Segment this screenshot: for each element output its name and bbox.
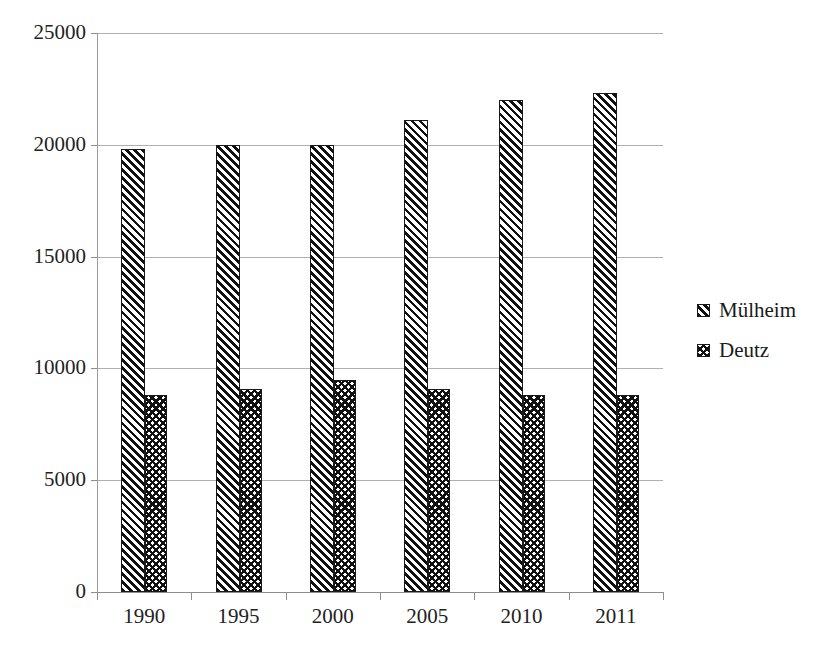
- x-tick-mark: [191, 592, 192, 600]
- x-tick-label-1990: 1990: [97, 603, 191, 629]
- y-tick-label: 0: [76, 581, 87, 602]
- legend-swatch-icon: [697, 304, 710, 317]
- legend-label: Mülheim: [719, 300, 796, 321]
- bar-deutz-2010: [523, 395, 545, 592]
- x-tick-label-2005: 2005: [380, 603, 474, 629]
- x-tick-mark: [569, 592, 570, 600]
- legend-label: Deutz: [719, 340, 769, 361]
- bar-chart: 0500010000150002000025000 19901995200020…: [0, 0, 829, 651]
- bar-deutz-2000: [334, 380, 356, 592]
- plot-area: [97, 33, 663, 592]
- x-tick-mark: [286, 592, 287, 600]
- bar-mlheim-2011: [593, 93, 617, 592]
- x-tick-label-2011: 2011: [569, 603, 663, 629]
- x-tick-mark: [380, 592, 381, 600]
- x-tick-mark: [97, 592, 98, 600]
- x-tick-mark: [663, 592, 664, 600]
- y-tick-label: 15000: [34, 246, 87, 267]
- bar-deutz-2005: [428, 389, 450, 592]
- bar-mlheim-1990: [121, 149, 145, 592]
- x-tick-label-2010: 2010: [475, 603, 569, 629]
- bar-mlheim-2010: [499, 100, 523, 592]
- y-tick-label: 10000: [34, 357, 87, 378]
- legend-item-deutz: Deutz: [697, 330, 829, 370]
- legend-swatch-icon: [697, 344, 710, 357]
- legend-item-mlheim: Mülheim: [697, 290, 829, 330]
- bar-mlheim-1995: [216, 145, 240, 592]
- y-tick-label: 25000: [34, 22, 87, 43]
- chart-legend: MülheimDeutz: [697, 290, 829, 370]
- y-tick-label: 20000: [34, 134, 87, 155]
- x-tick-label-1995: 1995: [192, 603, 286, 629]
- bar-deutz-2011: [617, 395, 639, 592]
- bar-mlheim-2000: [310, 145, 334, 592]
- y-tick-label: 5000: [44, 469, 86, 490]
- x-tick-label-2000: 2000: [286, 603, 380, 629]
- bar-deutz-1995: [240, 389, 262, 592]
- bar-deutz-1990: [145, 395, 167, 592]
- x-tick-mark: [474, 592, 475, 600]
- bar-mlheim-2005: [404, 120, 428, 592]
